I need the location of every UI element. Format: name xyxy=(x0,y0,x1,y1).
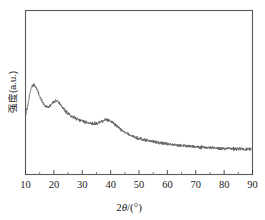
x-tick-label: 70 xyxy=(191,179,202,190)
x-title-suffix: /(°) xyxy=(127,201,142,214)
y-axis-title: 强度(a.u.) xyxy=(7,71,18,113)
x-axis-major-ticks xyxy=(26,170,253,175)
x-tick-label: 30 xyxy=(77,179,88,190)
chart-canvas: 102030405060708090 2θ/(°) 强度(a.u.) xyxy=(0,0,265,220)
plot-frame xyxy=(26,11,253,175)
xrd-figure: 102030405060708090 2θ/(°) 强度(a.u.) xyxy=(0,0,265,220)
xrd-data-curve xyxy=(26,84,252,151)
x-tick-label: 50 xyxy=(134,179,145,190)
x-tick-label: 90 xyxy=(247,179,258,190)
x-tick-label: 60 xyxy=(162,179,173,190)
x-tick-label: 10 xyxy=(20,179,31,190)
x-tick-label: 40 xyxy=(105,179,116,190)
x-axis-tick-labels: 102030405060708090 xyxy=(20,179,258,190)
x-tick-label: 20 xyxy=(49,179,60,190)
x-tick-label: 80 xyxy=(219,179,230,190)
x-axis-title: 2θ/(°) xyxy=(116,201,142,214)
